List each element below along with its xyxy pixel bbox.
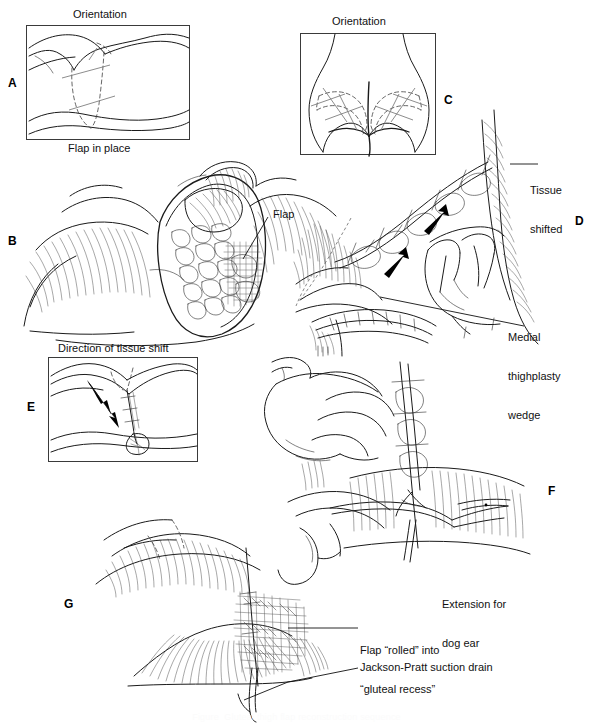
panel-e-frame bbox=[48, 357, 198, 462]
panel-letter-f: F bbox=[548, 484, 555, 498]
callout-extension-line2: dog ear bbox=[442, 637, 506, 650]
panel-e-drawing bbox=[49, 358, 199, 463]
callout-medial-thighplasty-wedge: Medial thighplasty wedge bbox=[508, 305, 561, 448]
callout-tissue-shifted-line2: shifted bbox=[530, 223, 562, 236]
figure-canvas: Orientation A Flap in place B bbox=[0, 0, 593, 723]
panel-c-drawing bbox=[301, 34, 437, 156]
callout-medial-line3: wedge bbox=[508, 409, 561, 422]
callout-flap-rolled-line1: Flap “rolled” into bbox=[360, 644, 439, 657]
panel-letter-e: E bbox=[27, 400, 35, 414]
panel-letter-c: C bbox=[444, 93, 453, 107]
callout-flap-rolled-line2: “gluteal recess” bbox=[360, 683, 439, 696]
callout-tissue-shifted: Tissue shifted bbox=[530, 158, 562, 262]
figure-bottom-caption: Figure Gluteal thigh flap reconstruction… bbox=[0, 712, 593, 722]
panel-c-frame bbox=[300, 33, 436, 155]
callout-medial-line2: thighplasty bbox=[508, 370, 561, 383]
panel-letter-d: D bbox=[575, 214, 584, 228]
callout-medial-line1: Medial bbox=[508, 331, 561, 344]
callout-flap: Flap bbox=[273, 208, 294, 221]
panel-letter-g: G bbox=[64, 597, 73, 611]
callout-extension-line1: Extension for bbox=[442, 598, 506, 611]
panel-e-title: Direction of tissue shift bbox=[58, 342, 169, 355]
callout-tissue-shifted-line1: Tissue bbox=[530, 184, 562, 197]
panel-c-title: Orientation bbox=[332, 15, 386, 28]
callout-jackson-pratt-drain: Jackson-Pratt suction drain bbox=[360, 661, 493, 674]
